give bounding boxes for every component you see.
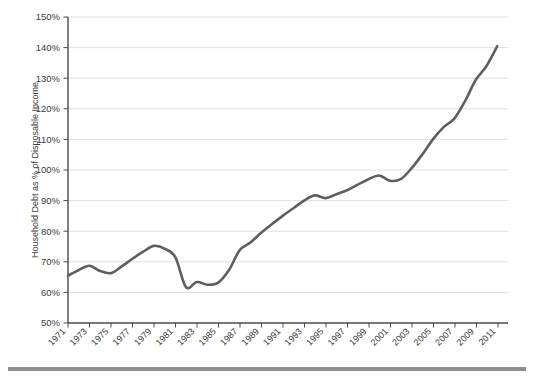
xtick-label: 1983 (175, 326, 196, 347)
line-chart: 150% 140% 130% 120% 110% 100% 90% 80% 70… (0, 0, 534, 384)
ytick-label: 140% (36, 42, 61, 53)
ytick-label: 60% (41, 287, 61, 298)
xtick-label: 1989 (240, 326, 261, 347)
x-tick-marks (68, 323, 498, 328)
xtick-label: 2003 (390, 326, 411, 347)
xtick-label: 1987 (218, 326, 239, 347)
xtick-label: 1985 (197, 326, 218, 347)
ytick-label: 110% (36, 134, 60, 145)
ytick-label: 70% (41, 256, 61, 267)
xtick-label: 1993 (283, 326, 304, 347)
footer-rule (8, 367, 526, 371)
xtick-label: 1973 (68, 326, 89, 347)
xtick-label: 1999 (347, 326, 368, 347)
xtick-label: 1995 (304, 326, 325, 347)
ytick-label: 80% (41, 226, 61, 237)
xtick-label: 1977 (111, 326, 132, 347)
xtick-label: 2009 (455, 326, 476, 347)
y-axis-title: Household Debt as % of Disposable Income (30, 82, 40, 258)
ytick-label: 90% (41, 195, 61, 206)
ytick-label: 50% (41, 317, 61, 328)
xtick-label: 1971 (46, 326, 67, 347)
xtick-label: 2007 (433, 326, 454, 347)
xtick-label: 1991 (261, 326, 282, 347)
xtick-label: 1979 (132, 326, 153, 347)
xtick-label: 2001 (369, 326, 390, 347)
x-tick-labels: 1971 1973 1975 1977 1979 1981 1983 1985 … (46, 326, 497, 347)
chart-figure: 150% 140% 130% 120% 110% 100% 90% 80% 70… (0, 0, 534, 384)
xtick-label: 1975 (89, 326, 110, 347)
xtick-label: 1981 (154, 326, 175, 347)
xtick-label: 2011 (477, 326, 498, 347)
xtick-label: 2005 (412, 326, 433, 347)
xtick-label: 1997 (326, 326, 347, 347)
ytick-label: 150% (36, 11, 61, 22)
